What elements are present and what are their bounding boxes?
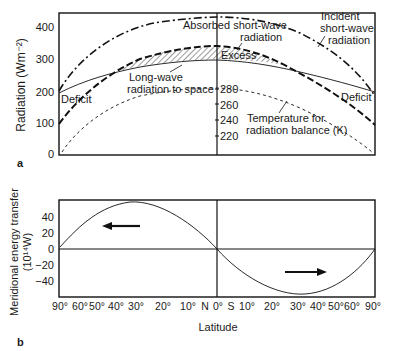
ytick: 20	[42, 227, 54, 239]
y-axis-label-b-units: (10¹⁴W)	[21, 233, 33, 271]
xtick: N	[201, 300, 209, 312]
incident-label: Incident	[321, 10, 360, 22]
y-axis-label-a: Radiation (Wm⁻²)	[14, 38, 28, 131]
incident-label: radiation	[328, 34, 370, 46]
temp-tick: 220	[220, 130, 238, 142]
excess-label: Excess	[221, 49, 257, 61]
xtick: S	[227, 300, 234, 312]
panel-label-b: b	[17, 336, 24, 348]
x-axis: 90° 60° 50° 40° 30° 20° 10° N 0° S 10° 2…	[52, 300, 381, 312]
temp-tick: 260	[220, 99, 238, 111]
panel-b: 40 20 0 −20 −40 Meridional energy transf…	[8, 188, 381, 348]
temp-tick: 280	[220, 83, 238, 95]
absorbed-label: Absorbed short-wave	[183, 19, 287, 31]
temperature-label: radiation balance (K)	[246, 124, 348, 136]
xtick: 0°	[213, 300, 223, 312]
panel-a: 0 100 200 300 400 Radiation (Wm⁻²) 280 2…	[14, 10, 375, 169]
ytick: 400	[36, 21, 54, 33]
right-arrow	[285, 268, 327, 276]
ytick: 0	[48, 243, 54, 255]
temp-tick: 240	[220, 114, 238, 126]
ytick: −20	[35, 259, 54, 271]
incident-label: short-wave	[320, 22, 374, 34]
xtick: 10°	[180, 300, 196, 312]
longwave-label: Long-wave	[129, 71, 183, 83]
ytick: 100	[36, 117, 54, 129]
ytick: −40	[35, 275, 54, 287]
xtick: 60°	[72, 300, 88, 312]
xtick: 60°	[344, 300, 360, 312]
xtick: 30°	[290, 300, 306, 312]
longwave-label: radiation to space	[127, 83, 214, 95]
deficit-left-label: Deficit	[61, 93, 92, 105]
panel-label-a: a	[17, 157, 24, 169]
xtick: 90°	[365, 300, 381, 312]
xtick: 50°	[328, 300, 344, 312]
xtick: 20°	[155, 300, 171, 312]
temp-axis: 280 260 240 220	[215, 83, 238, 142]
x-axis-label: Latitude	[198, 321, 237, 333]
xtick: 90°	[52, 300, 68, 312]
ytick: 0	[48, 148, 54, 160]
figure: 0 100 200 300 400 Radiation (Wm⁻²) 280 2…	[0, 0, 393, 351]
xtick: 40°	[310, 300, 326, 312]
y-axis-a: 0 100 200 300 400	[36, 21, 54, 160]
y-axis-b: 40 20 0 −20 −40	[35, 211, 54, 287]
temperature-label: Temperature for	[247, 112, 325, 124]
xtick: 20°	[264, 300, 280, 312]
excess-region	[118, 47, 283, 71]
absorbed-label: radiation	[240, 31, 282, 43]
xtick: 10°	[239, 300, 255, 312]
left-arrow	[102, 222, 140, 230]
y-axis-label-b: Meridional energy transfer	[8, 188, 20, 316]
xtick: 50°	[89, 300, 105, 312]
ytick: 200	[36, 86, 54, 98]
ytick: 300	[36, 53, 54, 65]
ytick: 40	[42, 211, 54, 223]
xtick: 30°	[128, 300, 144, 312]
deficit-right-label: Deficit	[341, 91, 372, 103]
xtick: 40°	[108, 300, 124, 312]
